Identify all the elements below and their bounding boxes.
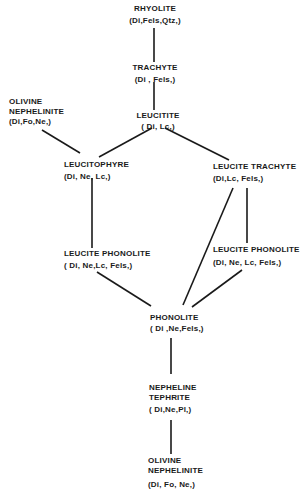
node-composition: (Di,Fo,Ne,): [9, 117, 64, 127]
node-composition: ( Di, Ne,Lc, Fels,): [64, 261, 151, 271]
node-leucite-trachyte: LEUCITE TRACHYTE (Di,Lc, Fels,): [213, 162, 296, 184]
node-name: LEUCITE TRACHYTE: [213, 162, 296, 172]
node-name: TRACHYTE: [132, 63, 177, 73]
node-name-line2: TEPHRITE: [149, 393, 197, 403]
edge-olivine-nephelinite-leucitophyre: [42, 130, 80, 153]
node-name-line2: NEPHELINITE: [9, 107, 64, 117]
node-composition: (Di, Ne, Lc, Fels,): [213, 258, 300, 268]
node-name: PHONOLITE: [150, 313, 204, 323]
node-composition: (Di , Fels,): [132, 75, 177, 85]
node-leucite-phonolite-left: LEUCITE PHONOLITE ( Di, Ne,Lc, Fels,): [64, 249, 151, 271]
node-composition: ( Di ,Ne,Fels,): [150, 324, 204, 334]
edge-leucite-phonolite-right-phonolite: [192, 270, 242, 307]
node-leucitophyre: LEUCITOPHYRE (Di, Ne, Lc,): [64, 160, 129, 182]
node-composition: (Di, Fo, Ne,): [148, 480, 203, 490]
node-composition: (Di, Ne, Lc,): [64, 172, 129, 182]
node-name: LEUCITOPHYRE: [64, 160, 129, 170]
node-name-line2: NEPHELINITE: [148, 466, 203, 476]
edge-leucitite-leucite-trachyte: [165, 128, 229, 160]
node-composition: (Di,Lc, Fels,): [213, 174, 296, 184]
node-composition: (Di,Fels,Qtz,): [129, 16, 181, 26]
node-leucitite: LEUCITITE ( Di, Lc,): [136, 111, 179, 132]
node-name: NEPHELINE: [149, 383, 197, 393]
edge-leucitite-leucitophyre: [99, 128, 152, 157]
node-composition: ( Di,Ne,Pl,): [149, 405, 197, 415]
node-olivine-nephelinite-bottom: OLIVINE NEPHELINITE (Di, Fo, Ne,): [148, 456, 203, 490]
node-name: LEUCITITE: [136, 111, 179, 121]
node-phonolite: PHONOLITE ( Di ,Ne,Fels,): [150, 313, 204, 334]
node-name: LEUCITE PHONOLITE: [64, 249, 151, 259]
node-leucite-phonolite-right: LEUCITE PHONOLITE (Di, Ne, Lc, Fels,): [213, 245, 300, 268]
node-name: OLIVINE: [9, 97, 64, 107]
node-name: RHYOLITE: [129, 4, 181, 14]
edge-leucite-phonolite-left-phonolite: [97, 272, 151, 306]
node-name: OLIVINE: [148, 456, 203, 466]
node-trachyte: TRACHYTE (Di , Fels,): [132, 63, 177, 85]
node-rhyolite: RHYOLITE (Di,Fels,Qtz,): [129, 4, 181, 26]
node-olivine-nephelinite-top: OLIVINE NEPHELINITE (Di,Fo,Ne,): [9, 97, 64, 127]
node-nepheline-tephrite: NEPHELINE TEPHRITE ( Di,Ne,Pl,): [149, 383, 197, 415]
node-name: LEUCITE PHONOLITE: [213, 245, 300, 255]
node-composition: ( Di, Lc,): [136, 122, 179, 132]
